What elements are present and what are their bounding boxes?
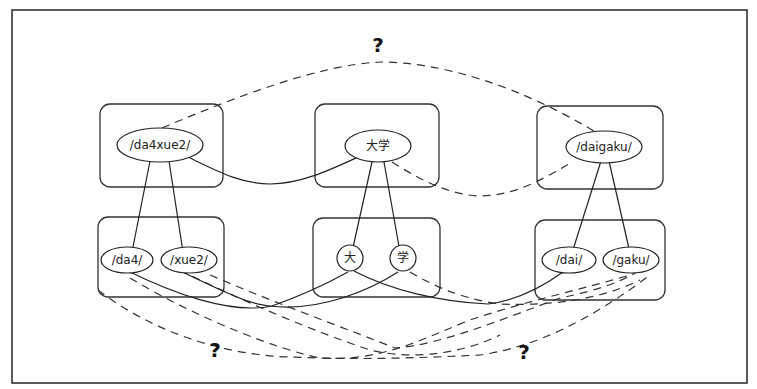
dashed-edge-hanzi-to-japanese: [392, 162, 572, 196]
edge-daigaku-to-dai: [572, 161, 601, 253]
edge-da4-to-da-char: [126, 270, 348, 308]
edge-da4xue2-to-hanzi: [186, 156, 356, 184]
dashed-edge-da4-to-gaku: [130, 275, 630, 358]
edge-daigaku-to-gaku: [609, 161, 630, 253]
node-pinyin-syllable-xue2-label: /xue2/: [170, 253, 209, 267]
node-pinyin-syllable-da4-label: /da4/: [112, 253, 144, 267]
node-hanzi-word-label: 大学: [366, 138, 390, 153]
dashed-edge-pinyin-to-japanese-top: [162, 62, 602, 136]
edge-da4xue2-to-xue2: [169, 161, 183, 252]
edge-hanzi-to-da-char: [352, 162, 372, 252]
node-japanese-word-label: /daigaku/: [576, 140, 633, 154]
dashed-edge-da4-lower-arc: [98, 275, 650, 358]
edge-da-char-to-dai: [354, 271, 563, 304]
node-pinyin-word-label: /da4xue2/: [130, 138, 191, 152]
node-japanese-syllable-dai-label: /dai/: [556, 253, 583, 267]
question-mark-bottom-left: ?: [209, 338, 221, 362]
box-hanzi-chars: [313, 218, 440, 297]
diagram-canvas: /da4xue2/ 大学 /daigaku/ /da4/ /xue2/ 大 学 …: [0, 0, 757, 389]
question-mark-top: ?: [372, 33, 384, 57]
edge-da4xue2-to-da4: [132, 161, 150, 252]
edge-hanzi-to-xue-char: [384, 162, 400, 252]
node-japanese-syllable-gaku-label: /gaku/: [612, 253, 650, 267]
outer-frame: [12, 10, 747, 383]
node-hanzi-char-da-label: 大: [344, 251, 356, 265]
node-hanzi-char-xue-label: 学: [397, 250, 409, 265]
dashed-edge-xue2-to-gaku: [210, 270, 640, 348]
question-mark-bottom-right: ?: [518, 340, 530, 364]
